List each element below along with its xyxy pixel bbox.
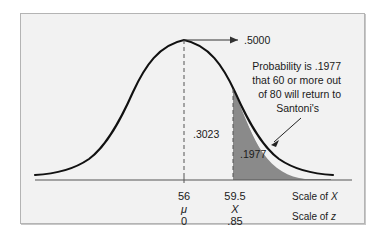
scale-x-symbol: X <box>330 191 338 202</box>
scale-x-label: Scale of X <box>292 191 338 202</box>
normal-distribution-chart: .5000 .3023 .1977 Probability is .1977 t… <box>21 14 366 225</box>
annotation-line-3: of 80 will return to <box>258 88 341 100</box>
half-area-arrowhead-icon <box>230 37 238 44</box>
cutoff-symbol-label: X <box>230 203 239 215</box>
scale-z-label: Scale of z <box>292 211 336 222</box>
annotation-line-1: Probability is .1977 <box>252 60 341 72</box>
annotation-pointer-line <box>274 118 301 142</box>
scale-x-prefix: Scale of <box>292 191 331 202</box>
mean-symbol-label: μ <box>180 203 187 215</box>
scale-z-prefix: Scale of <box>292 211 331 222</box>
cutoff-z-label: .85 <box>227 215 242 225</box>
area-mid-label: .3023 <box>193 128 219 140</box>
mean-z-label: 0 <box>181 215 187 225</box>
area-tail-label: .1977 <box>240 148 266 160</box>
mean-value-label: 56 <box>178 190 190 202</box>
annotation-line-4: Santoni's <box>276 102 319 114</box>
area-half-label: .5000 <box>244 34 270 46</box>
figure-frame: .5000 .3023 .1977 Probability is .1977 t… <box>20 13 365 224</box>
annotation-line-2: that 60 or more out <box>252 74 341 86</box>
cutoff-value-label: 59.5 <box>224 190 245 202</box>
scale-z-symbol: z <box>330 211 336 222</box>
